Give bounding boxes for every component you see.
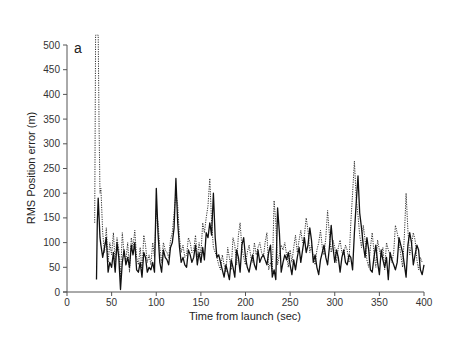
x-tick-label: 150 [193, 297, 210, 308]
y-tick-label: 250 [43, 163, 60, 174]
x-tick-label: 250 [282, 297, 299, 308]
dotted-series-line [95, 35, 423, 277]
y-tick-label: 0 [54, 287, 60, 298]
plot-area [95, 35, 424, 289]
y-tick-label: 450 [43, 64, 60, 75]
x-tick-label: 0 [64, 297, 70, 308]
x-tick-label: 300 [326, 297, 343, 308]
y-tick-label: 400 [43, 89, 60, 100]
x-axis: 050100150200250300350400 [63, 292, 433, 308]
y-tick-label: 200 [43, 188, 60, 199]
y-tick-label: 100 [43, 237, 60, 248]
solid-series-line [97, 176, 425, 290]
x-tick-label: 350 [371, 297, 388, 308]
y-axis: 050100150200250300350400450500 [43, 40, 67, 298]
x-tick-label: 200 [237, 297, 254, 308]
x-axis-title: Time from launch (sec) [189, 310, 301, 322]
panel-label: a [74, 40, 82, 56]
y-tick-label: 500 [43, 40, 60, 51]
chart: 050100150200250300350400450500 050100150… [0, 0, 452, 338]
y-tick-label: 150 [43, 212, 60, 223]
x-tick-label: 400 [416, 297, 433, 308]
x-tick-label: 50 [106, 297, 118, 308]
y-axis-title: RMS Position error (m) [25, 112, 37, 224]
y-tick-label: 350 [43, 114, 60, 125]
y-tick-label: 300 [43, 138, 60, 149]
y-tick-label: 50 [49, 262, 61, 273]
x-tick-label: 100 [148, 297, 165, 308]
